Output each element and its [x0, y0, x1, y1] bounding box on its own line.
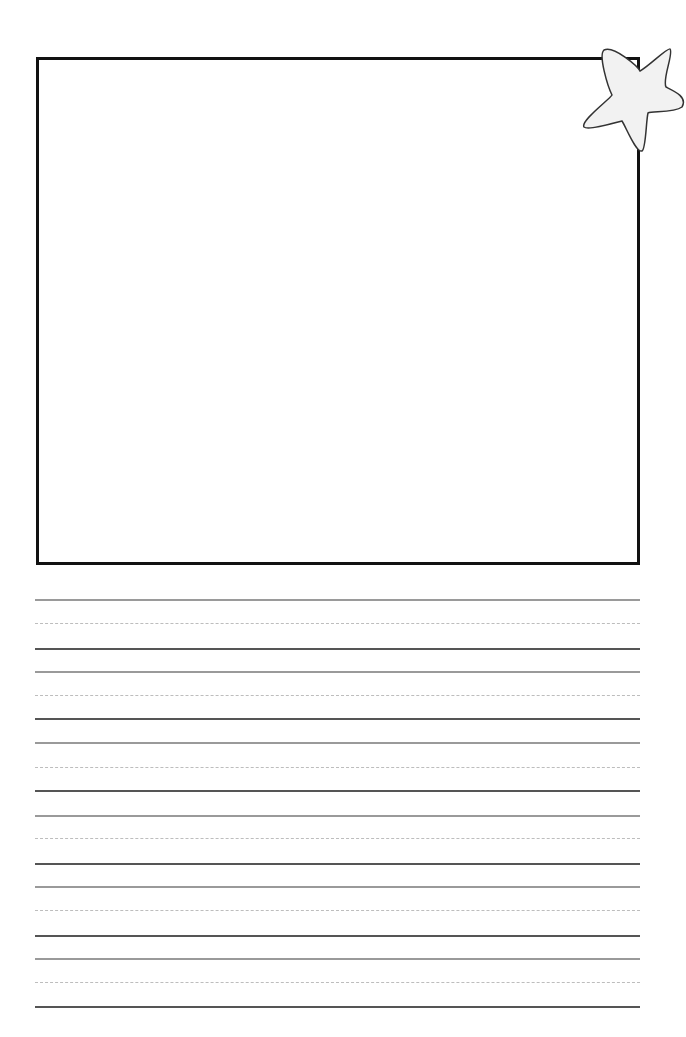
top-line [35, 742, 640, 744]
baseline [35, 935, 640, 937]
top-line [35, 815, 640, 817]
baseline [35, 863, 640, 865]
top-line [35, 671, 640, 673]
midline-dashed [35, 982, 640, 983]
midline-dashed [35, 910, 640, 911]
baseline [35, 718, 640, 720]
drawing-box [36, 57, 640, 565]
midline-dashed [35, 767, 640, 768]
midline-dashed [35, 623, 640, 624]
top-line [35, 886, 640, 888]
midline-dashed [35, 838, 640, 839]
midline-dashed [35, 695, 640, 696]
star-icon [570, 37, 686, 155]
baseline [35, 1006, 640, 1008]
top-line [35, 599, 640, 601]
baseline [35, 648, 640, 650]
top-line [35, 958, 640, 960]
baseline [35, 790, 640, 792]
